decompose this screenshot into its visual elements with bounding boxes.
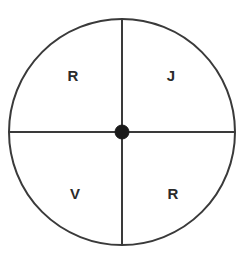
quartered-circle-diagram: R J V R bbox=[0, 0, 245, 262]
center-hub-icon bbox=[115, 125, 129, 139]
circle-diagram-graphic bbox=[0, 0, 245, 262]
quadrant-label-bottom-right: R bbox=[161, 186, 185, 201]
quadrant-label-top-left: R bbox=[61, 68, 85, 83]
quadrant-label-bottom-left: V bbox=[63, 186, 87, 201]
quadrant-label-top-right: J bbox=[159, 68, 183, 83]
